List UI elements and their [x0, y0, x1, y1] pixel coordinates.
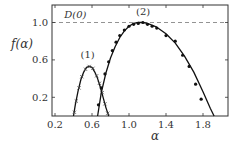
data-marker-dot — [146, 23, 149, 26]
data-marker-dot — [181, 54, 184, 57]
data-marker-dot — [200, 98, 203, 101]
data-marker-dot — [111, 49, 114, 52]
annotation: D(0) — [63, 9, 86, 20]
data-marker-dot — [123, 28, 126, 31]
annotation: (1) — [81, 49, 95, 60]
y-tick-label: 0.6 — [32, 54, 48, 65]
data-marker-dot — [114, 41, 117, 44]
series-layer — [73, 21, 214, 116]
data-marker-dot — [107, 60, 110, 63]
ticks-layer: 0.20.61.01.41.80.20.61.0 — [32, 5, 228, 130]
annotation: (2) — [136, 6, 150, 17]
y-axis-label: f(α) — [10, 37, 33, 51]
data-marker-dot — [100, 86, 103, 89]
data-marker-dot — [127, 25, 130, 28]
data-marker-dot — [141, 21, 144, 24]
data-marker-dot — [97, 103, 100, 106]
data-marker-dot — [137, 22, 140, 25]
y-tick-label: 1.0 — [32, 17, 48, 28]
y-tick-label: 0.2 — [32, 92, 48, 103]
x-tick-label: 1.4 — [158, 119, 174, 130]
x-tick-label: 0.6 — [84, 119, 100, 130]
data-marker-dot — [118, 34, 121, 37]
x-tick-label: 1.8 — [195, 119, 211, 130]
chart: 0.20.61.01.41.80.20.61.0 αf(α)D(0)(1)(2) — [0, 0, 237, 147]
data-marker-dot — [188, 65, 191, 68]
data-marker-dot — [194, 83, 197, 86]
x-tick-label: 1.0 — [121, 119, 137, 130]
data-marker-dot — [164, 34, 167, 37]
x-tick-label: 0.2 — [47, 119, 63, 130]
fit-curve — [98, 23, 215, 117]
data-marker-dot — [155, 27, 158, 30]
data-marker-dot — [132, 23, 135, 26]
data-marker-dot — [151, 25, 154, 28]
data-marker-dot — [103, 72, 106, 75]
x-axis-label: α — [151, 129, 159, 143]
data-marker-dot — [174, 40, 177, 43]
